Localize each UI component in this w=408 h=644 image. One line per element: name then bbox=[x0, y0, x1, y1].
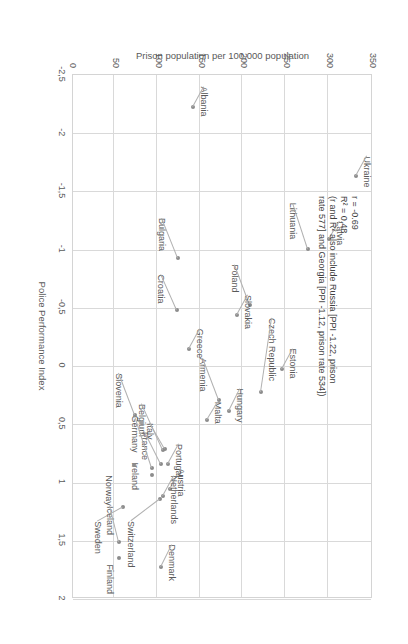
x-axis-tick-label: -1,5 bbox=[57, 170, 67, 210]
x-axis-tick-label: -1 bbox=[57, 229, 67, 269]
x-axis-title: Police Performance Index bbox=[37, 74, 48, 598]
x-axis-tick-label: 1,5 bbox=[57, 520, 67, 560]
data-point-label: Finland bbox=[105, 564, 115, 594]
gridline-horizontal bbox=[241, 75, 242, 597]
x-axis-tick-label: -2,5 bbox=[57, 54, 67, 94]
data-point-label: Netherlands bbox=[169, 476, 179, 525]
correlation-annotation: r = -0.69 R² = 0.48 (r and R² also inclu… bbox=[316, 196, 360, 397]
data-point-label: Sweden bbox=[93, 521, 103, 554]
annotation-r-squared: R² = 0.48 bbox=[338, 196, 349, 397]
data-point-label: Norway bbox=[104, 475, 114, 506]
data-point bbox=[150, 473, 154, 477]
data-point-label: Czech Republic bbox=[267, 318, 277, 381]
gridline-vertical bbox=[73, 599, 371, 600]
scatter-chart: -2,5-2-1,5-1-0,500,511,52050100150200250… bbox=[0, 0, 408, 644]
data-point-label: Croatia bbox=[156, 274, 166, 303]
data-point-label: Switzerland bbox=[126, 521, 136, 568]
y-axis-title: Prison population per 100,000 population bbox=[73, 50, 373, 61]
rotated-figure-wrapper: -2,5-2-1,5-1-0,500,511,52050100150200250… bbox=[0, 0, 408, 644]
data-point bbox=[132, 463, 136, 467]
x-axis-tick-label: 0,5 bbox=[57, 403, 67, 443]
x-axis-tick-label: 2 bbox=[57, 578, 67, 618]
annotation-note-line-2: rate 577] and Georgia [PPI -1.12, prison… bbox=[316, 196, 327, 397]
gridline-horizontal bbox=[156, 75, 157, 597]
x-axis-tick-label: 0 bbox=[57, 345, 67, 385]
x-axis-tick-label: -2 bbox=[57, 112, 67, 152]
annotation-note-line-1: (r and R² also include Russia [PPI -1.22… bbox=[327, 196, 338, 397]
x-axis-tick-label: -0,5 bbox=[57, 287, 67, 327]
gridline-horizontal bbox=[284, 75, 285, 597]
x-axis-tick-label: 1 bbox=[57, 462, 67, 502]
annotation-r: r = -0.69 bbox=[349, 196, 360, 397]
